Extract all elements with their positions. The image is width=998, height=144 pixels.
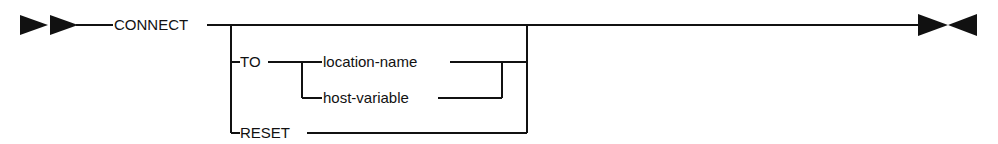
syntax-diagram: CONNECT TO location-name host-variable R… xyxy=(0,0,998,144)
keyword-reset: RESET xyxy=(240,124,290,141)
end-arrow-icon xyxy=(948,14,977,36)
end-arrow-icon xyxy=(918,14,948,36)
start-arrow-icon xyxy=(20,15,48,35)
keyword-connect: CONNECT xyxy=(114,16,188,33)
choice-location-name: location-name xyxy=(323,53,417,70)
keyword-to: TO xyxy=(240,53,261,70)
start-arrow-icon xyxy=(50,15,78,35)
choice-host-variable: host-variable xyxy=(323,89,409,106)
